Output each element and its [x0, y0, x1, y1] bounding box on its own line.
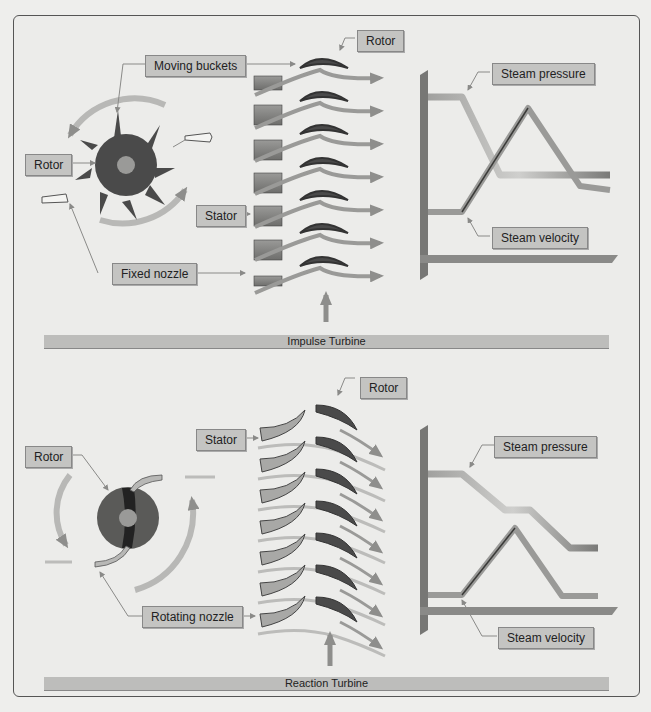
turbine-diagram [0, 0, 651, 712]
reaction-rotor-wheel [45, 475, 215, 567]
impulse-turbine-title: Impulse Turbine [44, 335, 609, 349]
impulse-nozzle-right-icon [185, 133, 212, 142]
label-impulse-rotor-wheel: Rotor [25, 154, 72, 176]
reaction-turbine-title: Reaction Turbine [44, 677, 609, 691]
label-impulse-steam-velocity: Steam velocity [492, 227, 588, 249]
label-reaction-steam-velocity: Steam velocity [498, 627, 594, 649]
label-reaction-steam-pressure: Steam pressure [494, 436, 597, 458]
impulse-rotor-wheel [75, 110, 175, 220]
label-impulse-steam-pressure: Steam pressure [492, 63, 595, 85]
label-impulse-rotor-blade: Rotor [357, 30, 404, 52]
label-moving-buckets: Moving buckets [145, 55, 246, 77]
label-fixed-nozzle: Fixed nozzle [112, 263, 197, 285]
impulse-nozzle-left-icon [42, 194, 68, 203]
label-impulse-stator: Stator [196, 205, 246, 227]
label-rotating-nozzle: Rotating nozzle [142, 606, 243, 628]
label-reaction-rotor-wheel: Rotor [25, 446, 72, 468]
label-reaction-stator: Stator [196, 429, 246, 451]
label-reaction-rotor-blade: Rotor [360, 377, 407, 399]
